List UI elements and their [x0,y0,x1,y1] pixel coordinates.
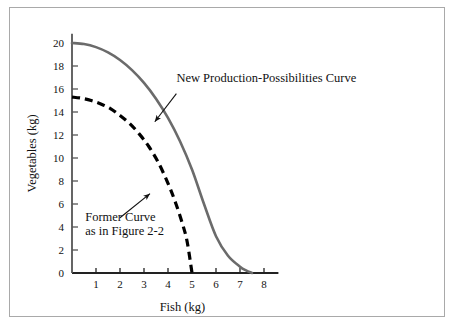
former-curve [72,97,192,273]
y-axis-tick-label: 12 [53,129,64,141]
y-axis-tick-label: 4 [59,221,65,233]
y-axis-tick-label: 2 [59,244,65,256]
y-axis-tick-label: 18 [53,60,65,72]
production-possibilities-chart: 1234567802468101214161820New Production-… [10,8,446,318]
y-axis-tick-label: 8 [59,175,65,187]
former-curve-annotation: Former Curveas in Figure 2-2 [85,194,164,239]
y-axis-tick-label: 10 [53,152,65,164]
new-curve-annotation: New Production-Possibilities Curve [155,71,357,122]
x-axis-tick-label: 3 [141,278,147,290]
annotation-label: Former Curve [85,210,156,224]
x-axis-tick-label: 8 [261,278,267,290]
y-axis-tick-label: 20 [53,37,65,49]
y-axis-tick-label: 6 [59,198,65,210]
x-axis-tick-label: 2 [117,278,123,290]
y-axis-tick-label: 16 [53,83,65,95]
y-axis-title: Vegetables (kg) [25,114,39,192]
x-axis-title: Fish (kg) [160,300,206,314]
x-axis-tick-label: 7 [237,278,243,290]
x-axis-tick-label: 1 [93,278,99,290]
x-axis-tick-label: 6 [213,278,219,290]
figure-frame: 1234567802468101214161820New Production-… [9,7,445,317]
y-axis-tick-label: 14 [53,106,65,118]
annotation-label: as in Figure 2-2 [85,224,164,238]
annotation-label: New Production-Possibilities Curve [176,71,356,85]
annotation-arrow [155,94,177,122]
x-axis-tick-label: 4 [165,278,171,290]
x-axis-tick-label: 5 [189,278,195,290]
y-axis-tick-label: 0 [59,267,65,279]
